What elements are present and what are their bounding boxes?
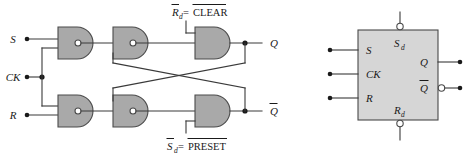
input-wire-s — [25, 37, 58, 42]
output-label-q: Q — [270, 37, 278, 49]
svg-text:d: d — [401, 43, 405, 52]
output-label-q-bar: Q — [270, 104, 279, 118]
circuit-canvas: S CK R Q Q R d = CLEAR S d = PRESET S — [0, 0, 465, 154]
block-label-ck: CK — [366, 68, 381, 80]
svg-text:=: = — [178, 141, 184, 152]
block-pin-rd-wire — [397, 120, 403, 140]
svg-text:PRESET: PRESET — [188, 141, 227, 152]
input-label-r: R — [9, 109, 17, 121]
block-pin-ck-wire — [328, 72, 358, 77]
svg-text:R: R — [171, 6, 179, 18]
input-wire-r — [25, 113, 58, 118]
nand-gate-bottom-middle — [113, 95, 195, 127]
figure-root: S CK R Q Q R d = CLEAR S d = PRESET S — [0, 0, 465, 154]
svg-text:S: S — [167, 140, 173, 152]
svg-text:Q: Q — [420, 82, 428, 94]
input-label-s: S — [10, 33, 16, 45]
block-label-q-bar: Q — [420, 81, 429, 95]
clear-stub-wire — [186, 21, 195, 33]
block-label-s: S — [366, 44, 372, 56]
block-pin-r-wire — [328, 96, 358, 101]
svg-text:CLEAR: CLEAR — [193, 7, 227, 18]
block-label-r: R — [365, 92, 373, 104]
svg-text:=: = — [183, 7, 189, 18]
block-pin-q-wire — [438, 60, 462, 65]
preset-stub-wire — [186, 121, 195, 133]
block-label-q: Q — [420, 56, 428, 68]
svg-text:R: R — [393, 104, 401, 116]
and-gate-top-output — [195, 27, 262, 59]
clear-annotation: R d = CLEAR — [171, 5, 227, 22]
preset-annotation: S d = PRESET — [167, 139, 228, 155]
svg-text:Q: Q — [270, 105, 278, 117]
nand-gate-bottom-input — [58, 95, 113, 127]
svg-text:S: S — [394, 37, 400, 49]
nand-gate-top-input — [58, 27, 113, 59]
nand-gate-top-middle — [113, 27, 195, 59]
block-pin-q-bar-wire — [438, 85, 462, 91]
svg-text:d: d — [401, 110, 405, 119]
block-pin-sd-wire — [397, 12, 403, 30]
input-wire-ck — [25, 48, 58, 106]
block-pin-s-wire — [328, 48, 358, 53]
input-label-ck: CK — [6, 71, 21, 83]
and-gate-bottom-output — [195, 95, 262, 127]
